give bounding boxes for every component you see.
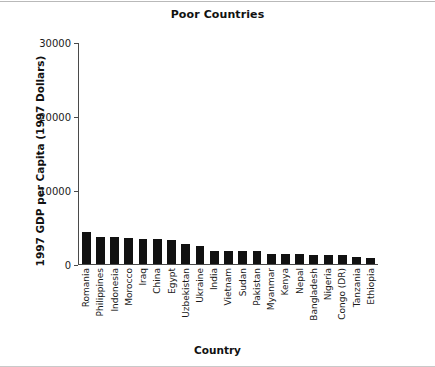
x-tick-label: Bangladesh [309,268,318,321]
bar [238,251,247,264]
x-tick-label: Vietnam [224,268,233,306]
bar [124,238,133,264]
bar [82,232,91,264]
x-tick-label: Philippines [96,268,105,317]
x-axis-tick-labels: RomaniaPhilippinesIndonesiaMoroccoIraqCh… [79,268,378,340]
x-label-slot: Bangladesh [307,268,321,340]
x-tick-label: Sudan [238,268,247,296]
x-tick-label: Myanmar [267,268,276,310]
bar [196,246,205,264]
x-tick-label: China [153,268,162,294]
x-label-slot: Tanzania [349,268,363,340]
bar-slot [321,43,335,264]
bar-slot [107,43,121,264]
bar [366,258,375,264]
x-label-slot: China [150,268,164,340]
x-label-slot: Ukraine [193,268,207,340]
bar-slot [193,43,207,264]
x-tick-label: Congo (DR) [338,268,347,320]
y-tick-mark [74,265,78,266]
bar-slot [164,43,178,264]
bar [167,240,176,264]
bar-slot [150,43,164,264]
bar [96,237,105,264]
x-label-slot: Morocco [122,268,136,340]
bar-slot [207,43,221,264]
bar [210,251,219,264]
x-tick-label: Nepal [295,268,304,294]
x-tick-label: Romania [82,268,91,307]
x-label-slot: Uzbekistan [179,268,193,340]
bar-slot [122,43,136,264]
x-label-slot: Myanmar [264,268,278,340]
bar-slot [307,43,321,264]
x-label-slot: Iraq [136,268,150,340]
y-tick-mark [74,117,78,118]
x-label-slot: Congo (DR) [335,268,349,340]
x-tick-label: Kenya [281,268,290,296]
bar-slot [221,43,235,264]
x-label-slot: Pakistan [250,268,264,340]
bar [110,237,119,264]
bar [139,239,148,264]
top-divider [0,1,435,2]
x-label-slot: Vietnam [221,268,235,340]
x-axis-label: Country [0,344,435,356]
bar-slot [349,43,363,264]
y-tick-mark [74,43,78,44]
x-tick-label: Egypt [167,268,176,294]
bar [281,254,290,264]
x-label-slot: Nigeria [321,268,335,340]
x-tick-label: Morocco [124,268,133,306]
x-tick-label: Tanzania [352,268,361,307]
y-tick-label: 20000 [39,112,71,123]
y-tick-label: 0 [65,260,71,271]
bar-series [79,43,378,264]
bar-slot [264,43,278,264]
x-tick-label: Nigeria [324,268,333,300]
x-label-slot: Kenya [278,268,292,340]
y-axis-label: 1997 GDP per Capita (1997 Dollars) [34,41,46,281]
bar [324,255,333,264]
x-tick-label: Iraq [139,268,148,286]
bar [267,254,276,264]
bar-slot [136,43,150,264]
plot-area: 0100002000030000 [78,43,378,265]
x-label-slot: Romania [79,268,93,340]
x-label-slot: Ethiopia [364,268,378,340]
chart-title: Poor Countries [0,8,435,21]
x-label-slot: Sudan [236,268,250,340]
chart-figure: Poor Countries 1997 GDP per Capita (1997… [0,0,435,367]
x-tick-label: Uzbekistan [181,268,190,318]
bar-slot [250,43,264,264]
x-tick-label: India [210,268,219,290]
x-label-slot: Indonesia [107,268,121,340]
y-tick-label: 30000 [39,38,71,49]
bar [295,254,304,264]
bar-slot [364,43,378,264]
bar-slot [79,43,93,264]
x-tick-label: Ukraine [195,268,204,303]
x-label-slot: Egypt [164,268,178,340]
bar [153,239,162,264]
bar-slot [93,43,107,264]
y-tick-label: 10000 [39,186,71,197]
y-tick-mark [74,191,78,192]
bar-slot [236,43,250,264]
bar [352,257,361,264]
x-axis-line [78,264,378,265]
x-label-slot: Nepal [293,268,307,340]
bar-slot [278,43,292,264]
bar-slot [293,43,307,264]
bar-slot [335,43,349,264]
bar [181,244,190,264]
x-label-slot: Philippines [93,268,107,340]
x-tick-label: Pakistan [252,268,261,306]
x-tick-label: Indonesia [110,268,119,312]
x-label-slot: India [207,268,221,340]
bar [338,255,347,264]
bar [309,255,318,264]
x-tick-label: Ethiopia [366,268,375,305]
bar-slot [179,43,193,264]
bar [253,251,262,264]
